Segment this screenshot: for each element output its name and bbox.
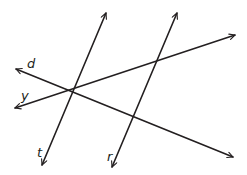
label-y: y bbox=[20, 88, 29, 103]
line-r bbox=[112, 13, 177, 167]
line-group bbox=[15, 13, 235, 167]
line-y bbox=[15, 35, 235, 108]
label-t: t bbox=[37, 145, 43, 160]
label-d: d bbox=[27, 56, 36, 71]
line-d bbox=[16, 69, 233, 157]
label-r: r bbox=[107, 149, 114, 164]
intersecting-lines-diagram: d y t r bbox=[0, 0, 247, 175]
